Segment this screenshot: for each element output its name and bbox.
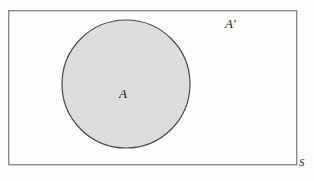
set-a-label: A (119, 87, 127, 100)
set-a-circle (62, 20, 190, 148)
set-a-complement-label: A′ (225, 17, 236, 30)
set-diagram-figure: A A′ S (0, 0, 314, 181)
diagram-canvas (0, 0, 314, 181)
universal-set-label: S (299, 157, 305, 168)
